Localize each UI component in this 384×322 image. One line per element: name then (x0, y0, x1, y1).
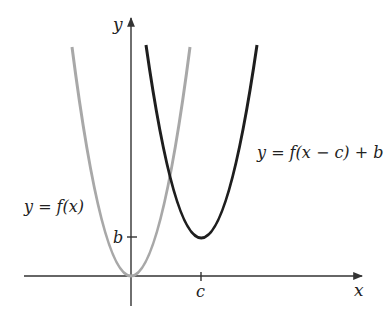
x-axis-label: x (354, 280, 364, 300)
original-curve-label: y = f(x) (23, 197, 84, 216)
c-tick-label: c (196, 282, 205, 301)
b-tick-label: b (113, 228, 123, 247)
y-axis-label: y (112, 14, 123, 34)
translation-diagram: y x b c y = f(x) y = f(x − c) + b (0, 0, 384, 322)
translated-curve-label: y = f(x − c) + b (256, 143, 383, 162)
